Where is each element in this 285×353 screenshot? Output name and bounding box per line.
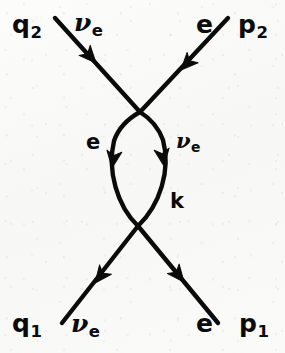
label-internal-momentum: k	[170, 191, 184, 212]
feynman-diagram-figure: q2 νe e p2 e νe k q1 νe e p1	[0, 0, 285, 353]
label-outgoing-neutrino-momentum: q2	[12, 12, 42, 41]
electron-internal-branch	[112, 112, 140, 226]
label-outgoing-electron-particle: e	[196, 12, 213, 37]
neutrino-internal-branch	[138, 112, 166, 226]
label-internal-electron: e	[86, 132, 100, 153]
label-internal-neutrino: νe	[176, 130, 200, 155]
label-incoming-electron-particle: e	[196, 311, 213, 336]
label-outgoing-electron-momentum: p2	[238, 12, 268, 41]
label-incoming-neutrino-particle: νe	[71, 311, 100, 340]
label-incoming-electron-momentum: p1	[239, 311, 269, 340]
label-outgoing-neutrino-particle: νe	[74, 10, 103, 39]
label-incoming-neutrino-momentum: q1	[12, 311, 42, 340]
feynman-diagram-canvas	[0, 0, 285, 353]
arrowhead-internal-neutrino	[154, 148, 171, 167]
